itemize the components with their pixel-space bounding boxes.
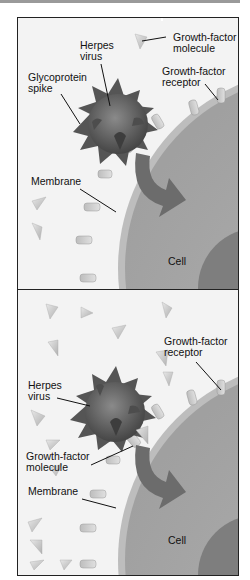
label-growth-factor-receptor: Growth-factor receptor: [162, 66, 226, 88]
panel2-illustration: [18, 290, 239, 576]
label-herpes-virus: Herpes virus: [80, 40, 114, 62]
label-membrane: Membrane: [28, 486, 78, 497]
panel-virus-binding: Growth-factor receptor Herpes virus Grow…: [17, 289, 239, 576]
label-growth-factor-molecule: Growth-factor molecule: [173, 32, 237, 54]
label-herpes-virus: Herpes virus: [28, 380, 62, 402]
label-cell: Cell: [168, 535, 186, 546]
panel1-illustration: [18, 18, 239, 290]
label-growth-factor-receptor: Growth-factor receptor: [164, 336, 228, 358]
label-line: virus: [28, 391, 62, 402]
panel-virus-approach: Growth-factor molecule Herpes virus Grow…: [17, 17, 239, 290]
label-glycoprotein-spike: Glycoprotein spike: [28, 72, 87, 94]
label-line: virus: [80, 51, 114, 62]
label-line: receptor: [164, 347, 228, 358]
label-line: molecule: [26, 462, 90, 473]
label-growth-factor-molecule: Growth-factor molecule: [26, 451, 90, 473]
label-line: spike: [28, 83, 87, 94]
label-line: receptor: [162, 77, 226, 88]
label-membrane: Membrane: [31, 176, 81, 187]
top-border-strip: [0, 0, 240, 3]
label-cell: Cell: [168, 256, 186, 267]
label-line: molecule: [173, 43, 237, 54]
